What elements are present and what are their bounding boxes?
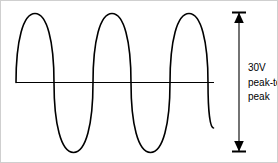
measurement-unit-line-1: peak-to- [248,76,278,91]
arrow-down-head-icon [234,141,244,152]
peak-to-peak-dimension-arrow [232,13,246,152]
arrow-up-head-icon [234,13,244,24]
waveform-figure: 30V peak-to- peak [0,0,278,163]
measurement-value: 30V [248,61,278,76]
peak-to-peak-label: 30V peak-to- peak [248,61,278,105]
waveform-canvas [1,1,278,163]
measurement-unit-line-2: peak [248,90,278,105]
